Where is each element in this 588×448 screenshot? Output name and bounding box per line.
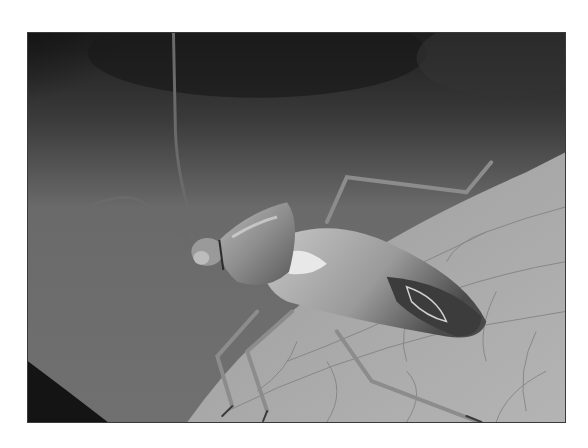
insect-photo: Grayscale close-up photograph of a long-…	[27, 32, 566, 423]
insect-photo-illustration	[28, 33, 565, 422]
